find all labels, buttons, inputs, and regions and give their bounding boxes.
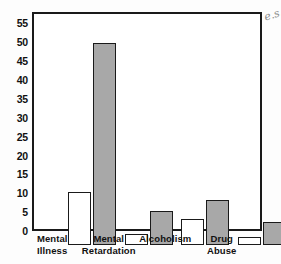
- x-axis-label-0: MentalIllness: [24, 233, 81, 256]
- y-axis-tick-label: 45: [17, 56, 28, 66]
- y-axis-tick-label: 55: [17, 18, 28, 28]
- x-axis-label-line: Alcoholism: [137, 233, 194, 245]
- x-axis-label-line: Illness: [24, 245, 81, 257]
- y-axis-tick-label: 20: [17, 151, 28, 161]
- y-axis-tick-labels: 0510152025303540455055: [0, 0, 28, 264]
- x-axis-label-line: Mental: [24, 233, 81, 245]
- handwritten-scan-mark: e.s.: [262, 5, 281, 23]
- plot-frame: [32, 12, 262, 231]
- y-axis-tick-label: 40: [17, 75, 28, 85]
- x-axis-label-line: Abuse: [194, 245, 251, 257]
- bar-filled-bar-0: [93, 43, 116, 245]
- bar-filled-bar-3: [263, 222, 281, 245]
- y-axis-tick-label: 35: [17, 94, 28, 104]
- y-axis-tick-label: 10: [17, 188, 28, 198]
- y-axis-tick-label: 5: [22, 207, 28, 217]
- x-axis-label-3: DrugAbuse: [194, 233, 251, 256]
- x-axis-label-1: MentalRetardation: [81, 233, 138, 256]
- x-axis-label-line: Drug: [194, 233, 251, 245]
- y-axis-tick-label: 25: [17, 132, 28, 142]
- x-axis-label-line: Mental: [81, 233, 138, 245]
- y-axis-tick-label: 15: [17, 169, 28, 179]
- y-axis-tick-label: 50: [17, 37, 28, 47]
- x-axis-label-2: Alcoholism: [137, 233, 194, 245]
- x-axis-label-line: Retardation: [81, 245, 138, 257]
- chart-page: 0510152025303540455055 MentalIllnessMent…: [0, 0, 281, 264]
- y-axis-tick-label: 30: [17, 113, 28, 123]
- bars-layer: [68, 28, 281, 245]
- x-axis-category-labels: MentalIllnessMentalRetardationAlcoholism…: [32, 233, 262, 264]
